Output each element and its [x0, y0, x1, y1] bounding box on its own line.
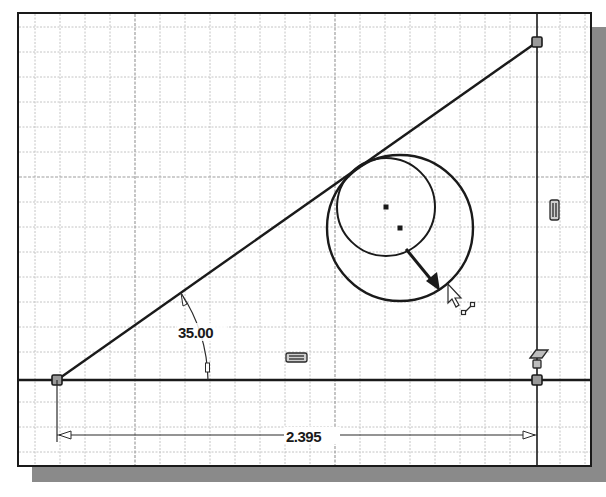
- circle-small-center[interactable]: [384, 205, 389, 210]
- sketch-svg[interactable]: 35.00 2.395: [19, 14, 590, 465]
- endpoint-bottom-right[interactable]: [532, 375, 542, 385]
- cursor-icon: [448, 284, 475, 315]
- sketch-canvas[interactable]: 35.00 2.395: [17, 12, 592, 467]
- horizontal-dimension[interactable]: 2.395: [57, 380, 537, 445]
- horizontal-constraint-icon[interactable]: [286, 353, 307, 362]
- coincident-constraint-icon[interactable]: [530, 350, 548, 368]
- endpoint-top-right[interactable]: [532, 37, 542, 47]
- circle-large-center[interactable]: [398, 226, 403, 231]
- resize-glyph-icon: [462, 303, 475, 315]
- horizontal-dimension-value[interactable]: 2.395: [286, 428, 321, 445]
- vertical-constraint-icon[interactable]: [550, 200, 559, 220]
- grid-major: [19, 14, 590, 465]
- grid: [19, 14, 590, 465]
- angle-dimension-value[interactable]: 35.00: [178, 324, 213, 341]
- inclined-line[interactable]: [57, 42, 537, 380]
